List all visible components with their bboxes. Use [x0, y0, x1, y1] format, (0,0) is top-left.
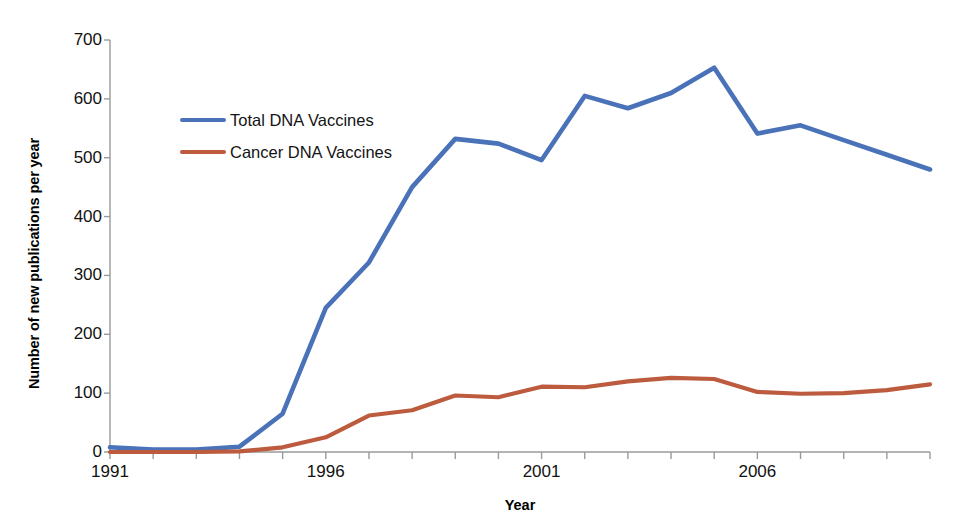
legend-label-cancer-dna-vaccines: Cancer DNA Vaccines — [230, 143, 392, 162]
legend-label-total-dna-vaccines: Total DNA Vaccines — [230, 111, 374, 130]
x-axis-tick-label: 1991 — [70, 462, 150, 482]
x-axis-title: Year — [110, 497, 930, 513]
x-axis-tick-label: 2001 — [502, 462, 582, 482]
chart-legend: Total DNA Vaccines Cancer DNA Vaccines — [180, 104, 480, 168]
legend-swatch-blue — [180, 118, 226, 122]
plot-area — [0, 0, 963, 527]
x-axis-tick-label: 2006 — [717, 462, 797, 482]
legend-item-cancer-dna-vaccines[interactable]: Cancer DNA Vaccines — [180, 136, 480, 168]
legend-item-total-dna-vaccines[interactable]: Total DNA Vaccines — [180, 104, 480, 136]
series-line-cancer-dna-vaccines — [110, 378, 930, 452]
chart-container: Number of new publications per year 0100… — [0, 0, 963, 527]
x-axis-tick-label: 1996 — [286, 462, 366, 482]
legend-swatch-red — [180, 150, 226, 154]
